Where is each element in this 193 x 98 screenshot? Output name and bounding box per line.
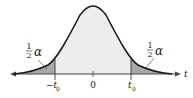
right-tail-label: 1 2 α <box>147 41 163 59</box>
right-leader-line <box>145 58 154 69</box>
left-tail-label: 1 2 α <box>26 42 42 60</box>
svg-text:1: 1 <box>26 42 31 51</box>
t-distribution-diagram: 1 2 α 1 2 α −t 0 0 t 0 t <box>0 0 193 98</box>
tick-label-zero: 0 <box>90 80 96 90</box>
left-tail-region <box>14 59 55 74</box>
svg-text:α: α <box>34 45 42 59</box>
svg-text:1: 1 <box>147 41 152 50</box>
svg-text:α: α <box>155 44 163 58</box>
svg-text:2: 2 <box>147 50 152 59</box>
tick-label-t0: t 0 <box>128 80 136 92</box>
axis-label-t: t <box>184 69 188 79</box>
svg-text:0: 0 <box>132 85 136 92</box>
svg-text:0: 0 <box>56 85 60 92</box>
svg-text:2: 2 <box>26 51 31 60</box>
tick-label-neg-t0: −t 0 <box>46 80 60 92</box>
axis-arrow-right-icon <box>175 72 181 77</box>
